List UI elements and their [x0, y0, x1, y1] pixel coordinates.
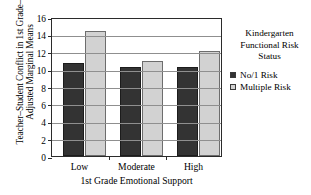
bar[interactable] — [120, 67, 141, 156]
legend-entries: No/1 RiskMultiple Risk — [228, 70, 311, 92]
y-tick-label: 14 — [6, 31, 52, 41]
gridline — [52, 123, 221, 124]
legend-entry[interactable]: Multiple Risk — [228, 82, 311, 92]
plot-area: 0246810121416 — [51, 18, 222, 157]
bar[interactable] — [142, 61, 163, 156]
y-tick-label: 4 — [6, 118, 52, 128]
gridline — [52, 140, 221, 141]
legend-swatch-icon — [230, 72, 236, 78]
legend-title-line-1: Kindergarten — [228, 28, 311, 40]
y-tick-label: 16 — [6, 14, 52, 24]
x-axis-title: 1st Grade Emotional Support — [51, 175, 222, 186]
legend-swatch-icon — [230, 84, 236, 90]
y-tick-label: 10 — [6, 66, 52, 76]
bar-chart-figure: Teacher–Student Conflict in 1st Grade– A… — [0, 0, 311, 195]
legend-title: Kindergarten Functional Risk Status — [228, 28, 311, 63]
gridline — [52, 105, 221, 106]
y-tick-label: 6 — [6, 101, 52, 111]
legend-entry-label: Multiple Risk — [240, 82, 291, 92]
legend-entry-label: No/1 Risk — [240, 70, 278, 80]
x-tick-label: High — [159, 161, 229, 172]
gridline — [52, 53, 221, 54]
legend-title-line-2: Functional Risk — [228, 40, 311, 52]
y-tick-label: 2 — [6, 136, 52, 146]
legend-entry[interactable]: No/1 Risk — [228, 70, 311, 80]
bar[interactable] — [85, 31, 106, 156]
x-tick-mark — [166, 156, 167, 160]
y-tick-label: 12 — [6, 49, 52, 59]
gridline — [52, 88, 221, 89]
bar[interactable] — [177, 67, 198, 156]
gridline — [52, 71, 221, 72]
gridline — [52, 36, 221, 37]
y-tick-label: 8 — [6, 84, 52, 94]
x-tick-mark — [109, 156, 110, 160]
legend-title-line-3: Status — [228, 51, 311, 63]
bar[interactable] — [63, 63, 84, 156]
legend: Kindergarten Functional Risk Status No/1… — [228, 28, 311, 94]
